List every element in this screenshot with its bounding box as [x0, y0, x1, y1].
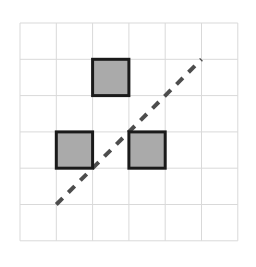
left-square [56, 132, 92, 168]
top-square [93, 59, 129, 95]
right-square [129, 132, 165, 168]
grid-figure-svg [0, 0, 256, 267]
figure-canvas [0, 0, 256, 267]
